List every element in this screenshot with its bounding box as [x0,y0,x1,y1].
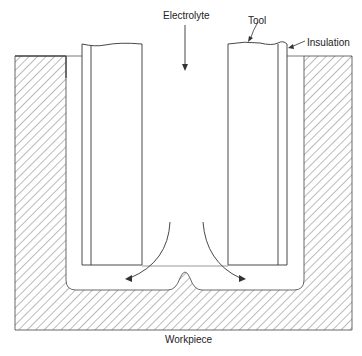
insulation-leader [288,41,305,49]
insulation-label: Insulation [307,37,350,48]
workpiece-label: Workpiece [165,334,212,345]
tool-left [82,43,142,265]
ecm-diagram [0,0,362,356]
electrolyte-arrow [182,25,188,71]
workpiece-body [15,56,352,330]
electrolyte-label: Electrolyte [163,10,210,21]
tool-right [228,42,287,265]
tool-label: Tool [248,15,266,26]
